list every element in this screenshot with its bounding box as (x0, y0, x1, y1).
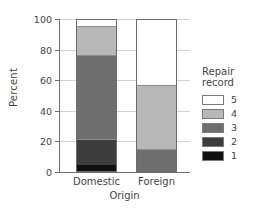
legend-label-5: 5 (231, 94, 237, 105)
y-tick-label-80: 80 (40, 44, 52, 55)
y-tick-20 (55, 141, 59, 142)
legend-label-1: 1 (231, 150, 237, 161)
legend-swatch-4 (202, 109, 224, 119)
legend-label-4: 4 (231, 108, 237, 119)
x-tick-label-foreign: Foreign (138, 176, 175, 187)
x-tick-label-domestic: Domestic (73, 176, 120, 187)
y-tick-label-100: 100 (34, 14, 52, 25)
legend-swatch-1 (202, 151, 224, 161)
bar-domestic-seg-3[interactable] (77, 55, 116, 139)
stacked-bar-chart: Percent 100 80 60 40 20 0 (0, 0, 257, 213)
y-tick-label-20: 20 (40, 136, 52, 147)
legend-swatch-5 (202, 95, 224, 105)
legend-label-2: 2 (231, 136, 237, 147)
legend-item-5[interactable]: 5 (202, 93, 257, 106)
legend-swatch-3 (202, 123, 224, 133)
legend-title-line-2: record (202, 77, 254, 88)
y-tick-label-40: 40 (40, 105, 52, 116)
bar-foreign-seg-3[interactable] (137, 149, 176, 171)
legend-label-3: 3 (231, 122, 237, 133)
bar-foreign[interactable] (136, 19, 177, 172)
bar-domestic-seg-2[interactable] (77, 139, 116, 165)
legend-item-3[interactable]: 3 (202, 121, 257, 134)
y-tick-label-60: 60 (40, 75, 52, 86)
legend-item-2[interactable]: 2 (202, 135, 257, 148)
x-axis-title: Origin (59, 190, 190, 201)
bar-foreign-seg-4[interactable] (137, 85, 176, 149)
legend-items: 5 4 3 2 1 (202, 93, 257, 162)
legend-item-1[interactable]: 1 (202, 149, 257, 162)
y-tick-0 (55, 172, 59, 173)
y-axis-title: Percent (8, 48, 19, 128)
y-tick-60 (55, 80, 59, 81)
plot-area: 100 80 60 40 20 0 (59, 19, 190, 172)
legend-swatch-2 (202, 137, 224, 147)
bar-domestic[interactable] (76, 19, 117, 172)
bar-domestic-seg-4[interactable] (77, 26, 116, 55)
y-axis-line (59, 19, 60, 172)
x-axis-line (59, 172, 190, 173)
legend-item-4[interactable]: 4 (202, 107, 257, 120)
y-tick-80 (55, 50, 59, 51)
bar-foreign-seg-5[interactable] (137, 20, 176, 85)
y-tick-40 (55, 111, 59, 112)
legend-title: Repair record (202, 66, 254, 88)
y-tick-100 (55, 19, 59, 20)
legend: Repair record 5 4 3 2 1 (202, 66, 257, 163)
y-tick-label-0: 0 (46, 167, 52, 178)
legend-title-line-1: Repair (202, 66, 254, 77)
bar-domestic-seg-1[interactable] (77, 165, 116, 171)
